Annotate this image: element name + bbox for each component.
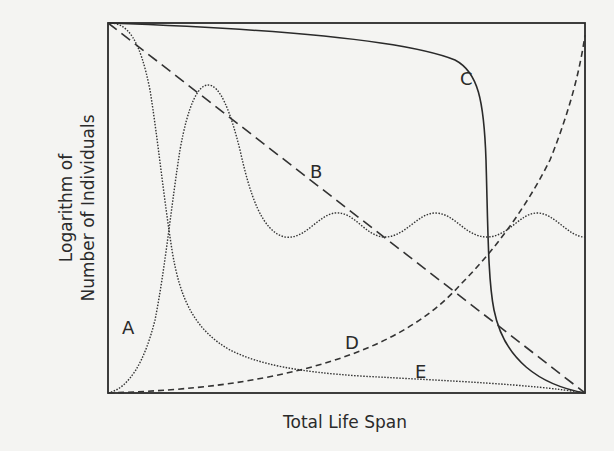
label-curve-b: B (310, 161, 322, 182)
label-curve-d: D (345, 332, 359, 353)
x-axis-title: Total Life Span (282, 412, 407, 432)
y-axis-title-line1: Logarithm of (56, 153, 76, 262)
label-curve-e: E (415, 361, 426, 382)
survivorship-chart: A B C D E Total Life Span Logarithm of N… (0, 0, 614, 451)
label-curve-a: A (122, 317, 135, 338)
y-axis-title-line2: Number of Individuals (78, 114, 98, 301)
label-curve-c: C (460, 68, 473, 89)
